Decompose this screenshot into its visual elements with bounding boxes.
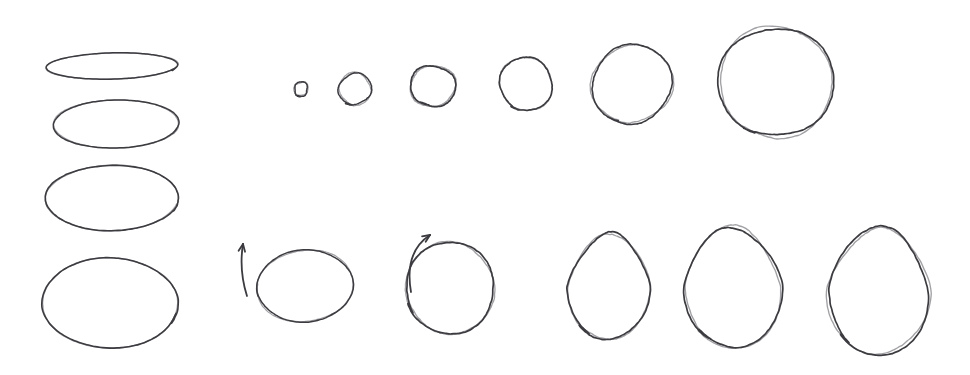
circle-top-3: Medium-small circle	[410, 66, 456, 107]
ellipse-left-2-outline	[53, 99, 180, 149]
oval-bottom-1-underpass	[253, 246, 357, 326]
ellipse-left-3: Wide ellipse	[45, 164, 179, 231]
sketch-canvas: Very flat ellipseFlat ellipseWide ellips…	[0, 0, 970, 375]
direction-arrow-straight: Upward straight direction arrow	[239, 244, 247, 296]
circle-top-1-outline	[295, 82, 307, 97]
ellipse-left-3-outline	[45, 165, 179, 232]
circle-top-2: Small circle	[338, 72, 372, 106]
ellipse-left-2: Flat ellipse	[53, 99, 180, 149]
ellipse-left-1-outline	[46, 51, 178, 81]
circle-top-6: Largest circle	[718, 26, 834, 139]
oval-bottom-2-underpass	[402, 238, 498, 337]
circle-top-1: Smallest circle	[294, 82, 309, 97]
oval-bottom-1: Wide teardrop oval	[253, 245, 357, 327]
sketch-surface: Very flat ellipseFlat ellipseWide ellips…	[0, 0, 970, 375]
ellipse-left-1: Very flat ellipse	[46, 51, 179, 81]
top-row-circles: Smallest circleSmall circleMedium-small …	[294, 26, 834, 139]
oval-bottom-3: Egg shape, narrow top	[566, 231, 652, 340]
oval-bottom-2-outline	[404, 240, 497, 337]
oval-bottom-5: Largest egg shape	[824, 224, 933, 357]
left-column-ellipses: Very flat ellipseFlat ellipseWide ellips…	[41, 51, 179, 349]
oval-bottom-2: Round oval	[402, 238, 498, 337]
oval-bottom-3-outline	[566, 231, 652, 340]
oval-bottom-5-outline	[827, 224, 932, 357]
oval-bottom-4: Tall egg shape	[682, 224, 783, 349]
bottom-row-ovals: Wide teardrop ovalRound ovalEgg shape, n…	[253, 224, 934, 357]
oval-bottom-1-outline	[253, 245, 357, 327]
ellipse-left-4-outline	[41, 257, 178, 349]
oval-bottom-5-underpass	[824, 225, 933, 356]
ellipse-left-4: Near-round ellipse	[41, 257, 178, 349]
circle-top-5: Large circle	[590, 44, 674, 125]
circle-top-4: Medium circle	[499, 57, 552, 110]
